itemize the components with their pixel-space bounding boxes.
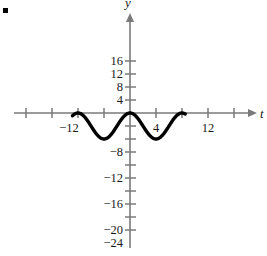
y-tick-label-neg16: −16 [95,198,123,211]
y-axis-label: y [125,0,131,9]
y-tick-label-neg20: −20 [95,224,123,237]
y-axis-arrowhead [126,13,134,22]
x-tick-label-neg12: −12 [55,122,83,135]
y-tick-label-12: 12 [103,68,123,81]
y-tick-label-neg12: −12 [95,172,123,185]
y-tick-label-8: 8 [103,81,123,94]
x-axis-arrowhead [248,109,257,117]
y-tick-label-neg8: −8 [95,146,123,159]
y-tick-label-16: 16 [103,55,123,68]
graph-canvas [0,0,267,256]
y-tick-label-neg24: −24 [95,237,123,250]
x-tick-label-12: 12 [194,122,222,135]
y-tick-label-4: 4 [103,94,123,107]
x-axis-label: t [260,107,264,120]
x-tick-label-4: 4 [148,122,164,135]
